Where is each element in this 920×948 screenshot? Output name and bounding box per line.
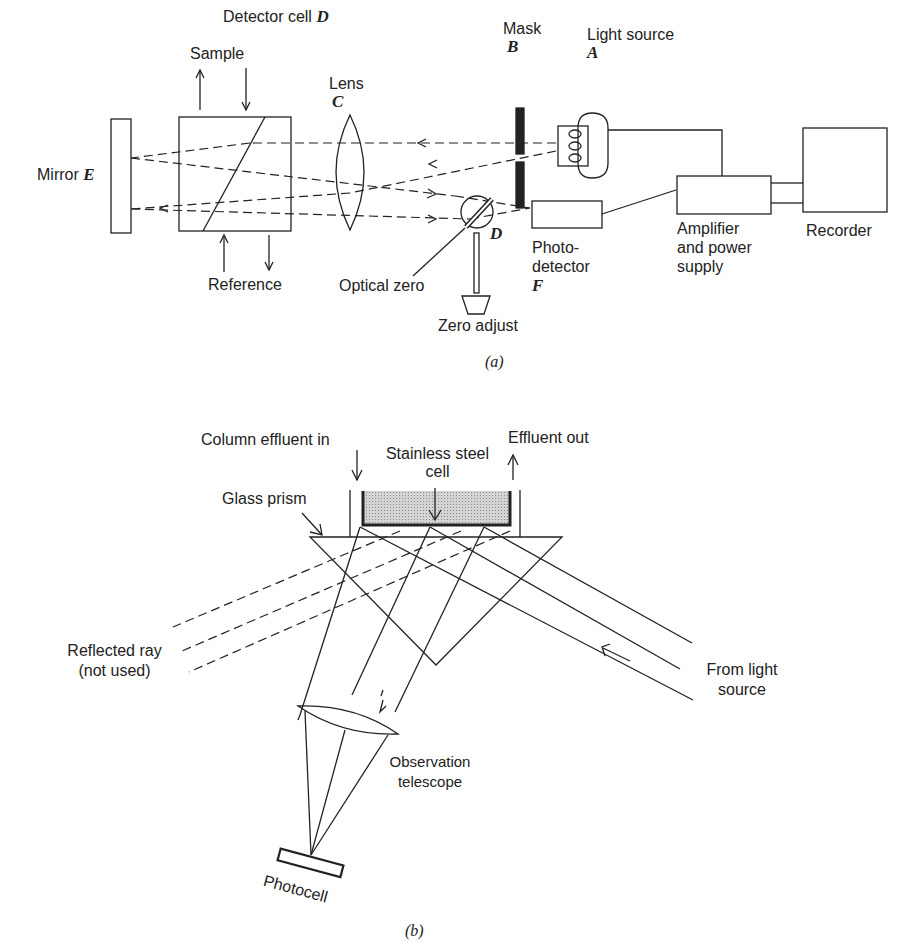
stainless-steel-cell-label: Stainless steel cell <box>375 445 500 481</box>
reflected-ray-label: Reflected ray (not used) <box>52 641 177 681</box>
mask-label: Mask <box>503 20 541 38</box>
light-source-label: Light source <box>587 26 674 44</box>
mask-letter: B <box>507 38 518 56</box>
mirror-letter: E <box>83 165 94 184</box>
caption-b: (b) <box>405 922 424 940</box>
light-source-letter: A <box>587 44 598 62</box>
observation-line2: telescope <box>375 772 485 792</box>
stainless-line1: Stainless steel <box>375 445 500 463</box>
photodetector-letter: F <box>532 276 590 295</box>
observation-telescope-label: Observation telescope <box>375 752 485 792</box>
glass-prism <box>310 537 562 665</box>
from-light-line2: source <box>692 680 792 700</box>
recorder-box <box>803 128 887 212</box>
mirror-text: Mirror <box>37 166 79 183</box>
reflected-line1: Reflected ray <box>52 641 177 661</box>
mirror-e <box>111 119 131 233</box>
amplifier-box <box>677 176 771 214</box>
lens-c <box>336 115 364 230</box>
mask-b <box>516 108 524 154</box>
from-light-line1: From light <box>692 660 792 680</box>
detector-cell-box <box>179 117 291 231</box>
lens-letter: C <box>332 93 343 111</box>
stainless-line2: cell <box>375 463 500 481</box>
d-letter: D <box>490 225 502 243</box>
reference-label: Reference <box>208 276 282 294</box>
zero-adjust-label: Zero adjust <box>438 317 518 335</box>
light-source-a <box>578 113 608 178</box>
from-light-source-label: From light source <box>692 660 792 700</box>
photodetector-line1: Photo- <box>532 238 590 257</box>
recorder-label: Recorder <box>806 222 872 240</box>
photodetector-f <box>532 201 602 228</box>
detector-cell-text: Detector cell <box>223 8 312 25</box>
detector-cell-letter: D <box>316 7 328 26</box>
mirror-label: Mirror E <box>37 166 95 184</box>
optical-zero-label: Optical zero <box>339 277 424 295</box>
amplifier-label: Amplifier and power supply <box>677 219 752 276</box>
photodetector-line2: detector <box>532 257 590 276</box>
zero-adjust-knob <box>474 233 479 293</box>
photodetector-label: Photo- detector F <box>532 238 590 295</box>
sample-label: Sample <box>190 45 244 63</box>
observation-lens <box>298 706 398 734</box>
effluent-out-label: Effluent out <box>508 429 589 447</box>
column-effluent-in-label: Column effluent in <box>201 431 330 449</box>
glass-prism-label: Glass prism <box>222 490 306 508</box>
caption-a: (a) <box>485 353 504 371</box>
amplifier-line1: Amplifier <box>677 219 752 238</box>
amplifier-line2: and power <box>677 238 752 257</box>
detector-cell-title: Detector cell D <box>223 8 329 26</box>
amplifier-line3: supply <box>677 257 752 276</box>
lens-label: Lens <box>329 75 364 93</box>
stainless-steel-cell <box>363 491 510 525</box>
reflected-line2: (not used) <box>52 661 177 681</box>
observation-line1: Observation <box>375 752 485 772</box>
